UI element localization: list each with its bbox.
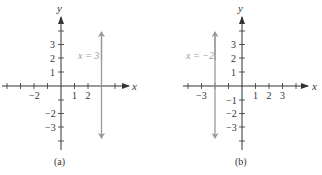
y-tick-label-3: 3: [50, 39, 55, 50]
y-tick-label-2: 2: [50, 53, 55, 64]
y-tick-label-2: 2: [231, 53, 236, 64]
x-tick-label-1: 1: [253, 90, 258, 101]
y-tick-label-3: 3: [231, 39, 236, 50]
panel-b: y x −3 1 2 3 3 2 1 −1 −2 −3 x = −2 (b): [183, 2, 317, 168]
y-tick-label-neg1: −1: [226, 95, 237, 106]
y-tick-label-1: 1: [50, 67, 55, 78]
x-tick-label-neg3: −3: [196, 90, 207, 101]
y-tick-label-neg2: −2: [226, 108, 237, 119]
y-tick-label-neg3: −3: [45, 122, 56, 133]
x-tick-label-1: 1: [72, 90, 77, 101]
y-tick-label-neg3: −3: [226, 122, 237, 133]
x-axis-label: x: [131, 80, 137, 92]
caption-a: (a): [54, 156, 65, 168]
y-axis-label: y: [237, 2, 243, 14]
panel-a: y x −2 1 2 3 2 1 −2 −3 x = 3 (a): [2, 2, 137, 168]
x-axis-label: x: [311, 80, 317, 92]
x-tick-label-2: 2: [86, 90, 91, 101]
figure: y x −2 1 2 3 2 1 −2 −3 x = 3 (a): [0, 0, 322, 175]
x-tick-label-neg2: −2: [29, 90, 40, 101]
y-tick-label-1: 1: [231, 67, 236, 78]
equation-label-a: x = 3: [77, 50, 99, 61]
x-tick-label-2: 2: [267, 90, 272, 101]
caption-b: (b): [235, 156, 247, 168]
y-axis-label: y: [56, 2, 62, 14]
equation-label-b: x = −2: [185, 50, 214, 61]
y-tick-label-neg2: −2: [45, 108, 56, 119]
x-tick-label-3: 3: [280, 90, 285, 101]
